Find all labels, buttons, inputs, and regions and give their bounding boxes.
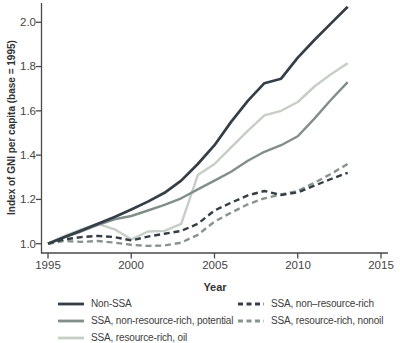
- legend-label-nonoil: SSA, resource-rich, nonoil: [271, 315, 383, 327]
- legend-item-ssa-resource-rich-nonoil: SSA, resource-rich, nonoil: [238, 315, 383, 327]
- legend-label-potential: SSA, non-resource-rich, potential: [91, 315, 233, 327]
- x-tick-label: 2015: [361, 259, 400, 272]
- y-tick-label: 1.6: [20, 105, 36, 117]
- legend-line-swatch-potential: [58, 316, 84, 326]
- legend-line-swatch-nonoil: [238, 316, 264, 326]
- y-tick-label: 2.0: [20, 16, 36, 28]
- x-tick-label: 1995: [28, 259, 68, 272]
- x-axis-label: Year: [191, 281, 239, 293]
- y-tick-label: 1.0: [20, 238, 36, 250]
- legend-item-ssa-non-resource-rich: SSA, non–resource-rich: [238, 298, 374, 310]
- legend-item-non-ssa: Non-SSA: [58, 298, 132, 310]
- x-tick-label: 2005: [195, 259, 235, 272]
- plot-area: [0, 0, 400, 296]
- legend-line-swatch-oil: [58, 333, 84, 343]
- legend-item-ssa-resource-rich-oil: SSA, resource-rich, oil: [58, 332, 187, 343]
- x-tick-label: 2000: [111, 259, 151, 272]
- y-tick-label: 1.2: [20, 193, 36, 205]
- legend-line-swatch-non-resource-rich: [238, 299, 264, 309]
- legend-item-ssa-non-resource-rich-potential: SSA, non-resource-rich, potential: [58, 315, 233, 327]
- legend-label-non-resource-rich: SSA, non–resource-rich: [271, 298, 374, 310]
- legend-line-swatch-non-ssa: [58, 299, 84, 309]
- legend-label-non-ssa: Non-SSA: [91, 298, 132, 310]
- legend-label-oil: SSA, resource-rich, oil: [91, 332, 187, 343]
- y-tick-label: 1.8: [20, 60, 36, 72]
- x-tick-label: 2010: [278, 259, 318, 272]
- gni-per-capita-index-chart: 2.0 1.8 1.6 1.4 1.2 1.0 1995 2000 2005 2…: [0, 0, 400, 343]
- y-axis-label: Index of GNI per capita (base = 1995): [5, 18, 18, 238]
- y-tick-label: 1.4: [20, 149, 36, 161]
